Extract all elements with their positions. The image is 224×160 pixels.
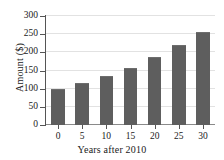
y-tick-label: 50 [8, 102, 38, 112]
y-tick-mark [40, 107, 45, 108]
x-tick-label: 0 [46, 131, 70, 141]
y-tick-label-wrap: 250 [4, 29, 38, 39]
bar [75, 83, 89, 125]
y-tick-label-wrap: 50 [4, 102, 38, 112]
y-tick-label: 300 [8, 11, 38, 21]
bar [100, 76, 114, 125]
y-tick-mark [40, 71, 45, 72]
x-tick-mark [106, 125, 107, 129]
x-tick-label: 30 [191, 131, 215, 141]
bar [196, 32, 210, 125]
y-tick-label: 200 [8, 47, 38, 57]
y-tick-label-wrap: 300 [4, 11, 38, 21]
bar [172, 45, 186, 125]
y-tick-mark [40, 125, 45, 126]
x-tick-mark [203, 125, 204, 129]
x-tick-label: 20 [143, 131, 167, 141]
y-tick-label: 100 [8, 84, 38, 94]
x-axis-title: Years after 2010 [0, 144, 224, 155]
x-tick-mark [155, 125, 156, 129]
y-tick-label: 0 [8, 120, 38, 130]
x-tick-mark [82, 125, 83, 129]
x-tick-label: 5 [70, 131, 94, 141]
plot-area [46, 16, 215, 125]
y-tick-mark [40, 52, 45, 53]
x-tick-label: 25 [167, 131, 191, 141]
gridline-300 [46, 15, 215, 16]
y-tick-label-wrap: 100 [4, 84, 38, 94]
bar-chart-figure: Amount ($) 050100150200250300 0510152025… [0, 0, 224, 160]
chart-title [0, 0, 224, 3]
y-tick-mark [40, 16, 45, 17]
y-tick-label-wrap: 0 [4, 120, 38, 130]
bar [124, 68, 138, 125]
x-tick-mark [58, 125, 59, 129]
x-tick-label: 15 [119, 131, 143, 141]
gridline-250 [46, 33, 215, 34]
bar [148, 57, 162, 125]
x-tick-label: 10 [94, 131, 118, 141]
x-tick-mark [131, 125, 132, 129]
x-tick-mark [179, 125, 180, 129]
bar [51, 89, 65, 125]
y-tick-label-wrap: 150 [4, 66, 38, 76]
gridline-200 [46, 51, 215, 52]
y-tick-label: 150 [8, 66, 38, 76]
y-tick-mark [40, 89, 45, 90]
y-tick-label-wrap: 200 [4, 47, 38, 57]
y-tick-label: 250 [8, 29, 38, 39]
y-tick-mark [40, 34, 45, 35]
